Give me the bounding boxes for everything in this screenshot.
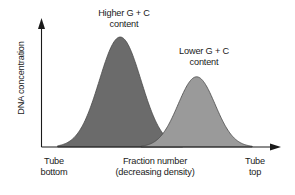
x-axis-label-tube-bottom: Tube bottom bbox=[26, 156, 82, 179]
dna-density-gradient-chart: DNA concentration Higher G + C content L… bbox=[0, 0, 295, 195]
y-axis-label: DNA concentration bbox=[16, 13, 26, 143]
x-axis-arrowhead bbox=[270, 144, 281, 151]
x-axis-label-tube-top: Tube top bbox=[228, 156, 282, 179]
lower-gc-peak-label: Lower G + C content bbox=[148, 46, 260, 69]
y-axis-arrowhead bbox=[38, 18, 45, 29]
higher-gc-peak-label: Higher G + C content bbox=[66, 8, 182, 31]
x-axis-label-fraction-number: Fraction number (decreasing density) bbox=[92, 156, 218, 179]
